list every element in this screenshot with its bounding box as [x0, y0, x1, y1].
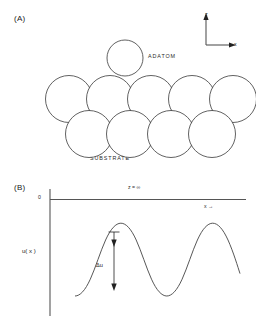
substrate-atom	[210, 76, 257, 123]
y-axis-label: u( x )	[22, 248, 36, 254]
substrate-atom	[46, 76, 93, 123]
figure-vector-layer	[0, 0, 256, 332]
axis-z-label: z	[205, 11, 208, 17]
potential-curve	[75, 223, 240, 296]
figure-root: (A) ADATOM SUBSTRATE z x (B) 0 z = ∞ x →…	[0, 0, 256, 332]
substrate-label: SUBSTRATE	[90, 155, 130, 161]
axis-x-label: x	[234, 41, 237, 47]
substrate-atom	[128, 76, 175, 123]
adatom-circle	[107, 40, 143, 76]
substrate-atom	[189, 111, 236, 158]
panel-a-axis-indicator	[203, 13, 236, 48]
substrate-atom	[107, 111, 154, 158]
substrate-atom	[87, 76, 134, 123]
substrate-atom	[148, 111, 195, 158]
substrate-top-row	[46, 76, 257, 123]
delta-u-arrow	[109, 232, 120, 291]
reference-line-label: z = ∞	[128, 184, 140, 190]
delta-u-upper-arrowhead	[111, 240, 116, 248]
x-axis-label: x →	[204, 203, 213, 209]
adatom-label: ADATOM	[148, 53, 176, 59]
substrate-atom	[169, 76, 216, 123]
substrate-atom	[66, 111, 113, 158]
zero-tick-label: 0	[38, 194, 41, 200]
substrate-bottom-row	[66, 111, 236, 158]
delta-u-lower-arrowhead	[111, 284, 116, 292]
panel-b-axes	[50, 189, 246, 316]
delta-u-label: Δu	[96, 262, 103, 268]
panel-a-label: (A)	[14, 14, 26, 23]
panel-b-label: (B)	[14, 183, 26, 192]
